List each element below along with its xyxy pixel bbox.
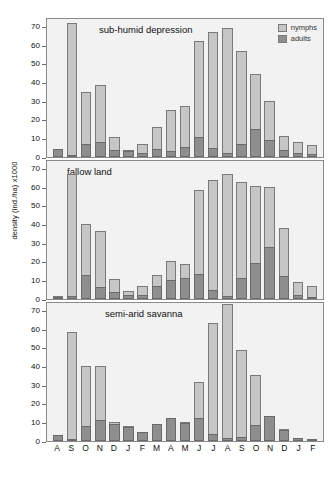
bar-segment-adults	[208, 148, 218, 157]
stacked-bar[interactable]	[67, 23, 77, 157]
stacked-bar[interactable]	[279, 228, 289, 299]
stacked-bar[interactable]	[264, 187, 274, 299]
stacked-bar[interactable]	[166, 110, 176, 157]
bar-segment-nymphs	[81, 366, 91, 426]
stacked-bar[interactable]	[81, 366, 91, 441]
stacked-bar[interactable]	[152, 424, 162, 441]
bar-segment-nymphs	[250, 375, 260, 425]
stacked-bar[interactable]	[293, 142, 303, 157]
x-tick-label: M	[178, 443, 192, 453]
stacked-bar[interactable]	[95, 85, 105, 157]
bar-segment-adults	[137, 295, 147, 299]
bar-segment-adults	[109, 150, 119, 157]
bar-slot	[136, 303, 150, 441]
stacked-bar[interactable]	[81, 224, 91, 299]
stacked-bar[interactable]	[279, 136, 289, 157]
y-tick-label: 30	[31, 97, 40, 107]
bar-slot	[263, 161, 277, 299]
bar-slot	[65, 19, 79, 157]
bar-segment-adults	[264, 140, 274, 157]
stacked-bar[interactable]	[152, 127, 162, 157]
y-tick-label: 10	[31, 276, 40, 286]
stacked-bar[interactable]	[123, 150, 133, 157]
bar-segment-adults	[307, 297, 317, 299]
stacked-bar[interactable]	[109, 137, 119, 157]
bar-segment-nymphs	[264, 101, 274, 140]
stacked-bar[interactable]	[180, 264, 190, 299]
stacked-bar[interactable]	[67, 332, 77, 441]
stacked-bar[interactable]	[279, 429, 289, 441]
stacked-bar[interactable]	[293, 282, 303, 299]
bar-segment-nymphs	[95, 231, 105, 287]
y-tick-label: 60	[31, 325, 40, 335]
stacked-bar[interactable]	[81, 92, 91, 157]
stacked-bar[interactable]	[137, 286, 147, 299]
bar-slot	[136, 19, 150, 157]
stacked-bar[interactable]	[208, 32, 218, 157]
bar-segment-adults	[208, 434, 218, 441]
bar-segment-adults	[123, 427, 133, 441]
stacked-bar[interactable]	[236, 51, 246, 157]
bar-segment-adults	[194, 418, 204, 441]
bar-segment-nymphs	[166, 110, 176, 151]
bar-segment-nymphs	[293, 142, 303, 154]
bar-group-panel-0	[51, 19, 319, 157]
bar-segment-adults	[180, 147, 190, 157]
stacked-bar[interactable]	[137, 432, 147, 441]
stacked-bar[interactable]	[307, 286, 317, 299]
stacked-bar[interactable]	[307, 439, 317, 441]
stacked-bar[interactable]	[53, 149, 63, 157]
stacked-bar[interactable]	[222, 304, 232, 441]
stacked-bar[interactable]	[222, 28, 232, 157]
stacked-bar[interactable]	[264, 101, 274, 157]
stacked-bar[interactable]	[293, 438, 303, 441]
stacked-bar[interactable]	[208, 323, 218, 441]
stacked-bar[interactable]	[166, 261, 176, 299]
stacked-bar[interactable]	[53, 296, 63, 299]
y-tick-label: 70	[31, 22, 40, 32]
stacked-bar[interactable]	[194, 382, 204, 441]
stacked-bar[interactable]	[236, 350, 246, 441]
bar-segment-adults	[293, 295, 303, 299]
stacked-bar[interactable]	[109, 422, 119, 441]
stacked-bar[interactable]	[236, 182, 246, 299]
stacked-bar[interactable]	[208, 180, 218, 299]
bar-segment-adults	[236, 144, 246, 157]
stacked-bar[interactable]	[180, 106, 190, 157]
bar-slot	[150, 161, 164, 299]
bar-segment-adults	[123, 151, 133, 157]
x-tick-label: J	[291, 443, 305, 453]
bar-segment-nymphs	[152, 127, 162, 149]
bar-segment-adults	[194, 137, 204, 157]
stacked-bar[interactable]	[123, 291, 133, 299]
bar-segment-adults	[53, 435, 63, 441]
stacked-bar[interactable]	[53, 435, 63, 441]
bar-slot	[51, 303, 65, 441]
stacked-bar[interactable]	[152, 275, 162, 299]
y-tick-label: 20	[31, 115, 40, 125]
bar-segment-nymphs	[194, 382, 204, 419]
stacked-bar[interactable]	[67, 174, 77, 299]
stacked-bar[interactable]	[250, 186, 260, 299]
stacked-bar[interactable]	[137, 144, 147, 157]
bar-segment-nymphs	[109, 279, 119, 292]
stacked-bar[interactable]	[109, 279, 119, 299]
stacked-bar[interactable]	[180, 422, 190, 441]
stacked-bar[interactable]	[222, 174, 232, 299]
stacked-bar[interactable]	[307, 145, 317, 157]
stacked-bar[interactable]	[194, 41, 204, 157]
x-tick-label: J	[192, 443, 206, 453]
bar-segment-nymphs	[67, 174, 77, 296]
bar-segment-nymphs	[307, 145, 317, 154]
bar-slot	[65, 161, 79, 299]
stacked-bar[interactable]	[95, 231, 105, 299]
stacked-bar[interactable]	[250, 375, 260, 441]
stacked-bar[interactable]	[250, 74, 260, 157]
bar-segment-nymphs	[250, 74, 260, 130]
stacked-bar[interactable]	[264, 416, 274, 441]
stacked-bar[interactable]	[95, 366, 105, 441]
stacked-bar[interactable]	[194, 190, 204, 299]
y-tick-label: 20	[31, 257, 40, 267]
stacked-bar[interactable]	[123, 426, 133, 441]
stacked-bar[interactable]	[166, 418, 176, 441]
